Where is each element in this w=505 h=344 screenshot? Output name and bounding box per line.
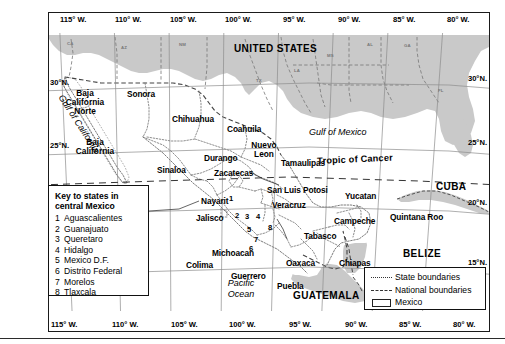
legend-label-national-boundaries: National boundaries — [395, 285, 471, 295]
map-figure: 115° W. 110° W. 105° W. 100° W. 95° W. 9… — [0, 0, 505, 344]
key-to-central-mexico-states-box: Key to states in central Mexico 1Aguasca… — [48, 185, 149, 296]
state-label-quintana-roo: Quintana Roo — [390, 212, 443, 222]
white-rectangle-icon — [369, 296, 395, 308]
key-item-6-number: 6 — [55, 266, 64, 277]
marker-number-6: 6 — [249, 244, 253, 253]
state-label-coahuila: Coahuila — [227, 124, 261, 134]
us-abbrev-az: AZ — [121, 45, 127, 50]
lat-label-right-25: 25°N. — [468, 138, 487, 147]
key-item-5-label: Mexico D.F. — [64, 255, 109, 265]
legend-row-state-boundaries: State boundaries — [369, 271, 485, 283]
water-label-pacific-ocean-line2: Ocean — [214, 289, 268, 300]
key-item-list: 1Aguascalientes 2Guanajuato 3Queretaro 4… — [55, 213, 148, 298]
marker-number-4: 4 — [256, 212, 260, 221]
legend-label-mexico: Mexico — [395, 297, 422, 307]
lon-label-top-110: 110° W. — [115, 15, 141, 24]
lon-label-bottom-90: 90° W. — [345, 320, 367, 329]
state-label-veracruz: Veracruz — [272, 200, 306, 210]
key-item-7-label: Morelos — [64, 277, 95, 287]
state-label-sonora: Sonora — [127, 89, 155, 99]
lon-label-bottom-115: 115° W. — [51, 320, 77, 329]
lon-label-top-115: 115° W. — [60, 15, 86, 24]
state-label-oaxaca: Oaxaca — [286, 258, 315, 268]
lat-label-right-30: 30°N. — [468, 74, 487, 83]
us-abbrev-al: AL — [367, 42, 373, 47]
key-item-8-label: Tlaxcala — [64, 287, 96, 297]
country-label-guatemala: GUATEMALA — [293, 290, 360, 301]
lat-label-left-30: 30°N. — [50, 78, 69, 87]
marker-number-7: 7 — [254, 235, 258, 244]
state-label-campeche: Campeche — [334, 216, 375, 226]
lon-label-bottom-110: 110° W. — [112, 320, 138, 329]
key-item-4-label: Hidalgo — [64, 245, 93, 255]
lon-label-top-80: 80° W. — [447, 15, 469, 24]
key-item-7: 7Morelos — [55, 277, 148, 288]
state-label-puebla: Puebla — [277, 281, 304, 291]
marker-number-2: 2 — [235, 211, 239, 220]
lon-label-bottom-80: 80° W. — [453, 320, 475, 329]
state-label-jalisco: Jalisco — [196, 213, 223, 223]
us-abbrev-ga: GA — [404, 43, 411, 48]
lat-label-right-15: 15°N. — [468, 258, 487, 267]
key-item-1: 1Aguascalientes — [55, 213, 148, 224]
key-item-1-number: 1 — [55, 213, 64, 224]
figure-baseline-rule — [0, 338, 505, 339]
country-label-belize: BELIZE — [403, 248, 441, 259]
key-item-1-label: Aguascalientes — [64, 213, 122, 223]
lon-label-top-85: 85° W. — [393, 15, 415, 24]
us-abbrev-ms: MS — [327, 53, 334, 58]
lon-label-top-105: 105° W. — [170, 15, 197, 24]
lon-label-bottom-100: 100° W. — [229, 320, 256, 329]
state-label-tabasco: Tabasco — [304, 231, 336, 241]
marker-number-5: 5 — [247, 225, 251, 234]
marker-number-8: 8 — [268, 223, 272, 232]
key-title-line2: central Mexico — [55, 201, 148, 211]
dashed-line-icon — [369, 284, 395, 296]
state-label-yucatan: Yucatan — [345, 191, 376, 201]
state-label-nuevo-leon-line2: Leon — [246, 150, 282, 159]
us-abbrev-fl: FL — [438, 88, 444, 93]
country-label-cuba: CUBA — [436, 181, 467, 192]
state-label-guerrero: Guerrero — [231, 271, 266, 281]
state-label-baja-california-norte-line3: Norte — [56, 107, 114, 116]
key-item-5: 5Mexico D.F. — [55, 255, 148, 266]
state-label-sinaloa: Sinaloa — [157, 165, 186, 175]
legend-label-state-boundaries: State boundaries — [395, 272, 460, 282]
state-label-michoacan: Michoacan — [212, 248, 254, 258]
key-item-2-number: 2 — [55, 224, 64, 235]
us-abbrev-ca: CA — [67, 41, 74, 46]
lon-label-bottom-105: 105° W. — [171, 320, 198, 329]
state-label-san-luis-potosi: San Luis Potosi — [267, 185, 328, 195]
key-item-3-number: 3 — [55, 234, 64, 245]
us-abbrev-tx: TX — [256, 78, 262, 83]
key-item-2-label: Guanajuato — [64, 224, 108, 234]
state-label-durango: Durango — [204, 153, 237, 163]
lon-label-top-100: 100° W. — [225, 15, 252, 24]
us-abbrev-la: LA — [294, 68, 300, 73]
legend-row-national-boundaries: National boundaries — [369, 283, 485, 295]
us-abbrev-nm: NM — [179, 42, 186, 47]
state-label-chihuahua: Chihuahua — [172, 114, 214, 124]
map-legend-box: State boundaries National boundaries Mex… — [364, 267, 486, 310]
state-label-zacatecas: Zacatecas — [214, 168, 253, 178]
lat-label-right-20: 20°N. — [468, 198, 487, 207]
key-item-6: 6Distrito Federal — [55, 266, 148, 277]
key-item-8-number: 8 — [55, 287, 64, 298]
marker-number-3: 3 — [245, 212, 249, 221]
state-label-nayarit: Nayarit — [201, 196, 228, 206]
key-item-4: 4Hidalgo — [55, 245, 148, 256]
water-label-gulf-of-mexico: Gulf of Mexico — [309, 127, 367, 137]
legend-row-mexico: Mexico — [369, 296, 485, 308]
key-item-3-label: Queretaro — [64, 234, 103, 244]
lon-label-top-95: 95° W. — [283, 15, 305, 24]
lon-label-top-90: 90° W. — [338, 15, 360, 24]
state-label-colima: Colima — [186, 260, 213, 270]
lon-label-bottom-95: 95° W. — [289, 320, 311, 329]
key-item-7-number: 7 — [55, 277, 64, 288]
marker-number-1: 1 — [229, 194, 233, 203]
key-title-line1: Key to states in — [55, 191, 148, 201]
key-item-2: 2Guanajuato — [55, 224, 148, 235]
key-item-6-label: Distrito Federal — [64, 266, 122, 276]
lon-label-bottom-85: 85° W. — [399, 320, 421, 329]
key-item-3: 3Queretaro — [55, 234, 148, 245]
